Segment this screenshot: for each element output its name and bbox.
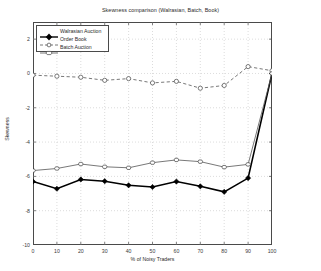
data-point-marker <box>33 169 35 172</box>
data-point-marker <box>78 177 83 182</box>
y-tick-label: 0 <box>12 70 30 76</box>
data-point-marker <box>174 79 178 83</box>
data-point-marker <box>198 160 203 163</box>
y-tick-label: -2 <box>12 105 30 111</box>
chart-title: Skewness comparison (Walrasian, Batch, B… <box>0 7 321 13</box>
y-tick-label: -8 <box>12 208 30 214</box>
data-point-marker <box>55 167 60 170</box>
legend-label-order-book: Order Book <box>60 36 87 42</box>
legend-item-walrasian-auction: Walrasian Auction <box>39 28 106 36</box>
x-tick-label: 0 <box>23 248 43 254</box>
legend-item-order-book: Order Book <box>39 35 106 43</box>
data-point-marker <box>102 165 107 168</box>
legend-label-walrasian-auction: Walrasian Auction <box>60 28 101 34</box>
plot-canvas <box>33 22 272 245</box>
data-point-marker <box>79 75 83 79</box>
data-point-marker <box>126 183 131 188</box>
data-point-marker <box>150 161 155 164</box>
data-point-marker <box>222 83 226 87</box>
x-tick-label: 20 <box>71 248 91 254</box>
x-tick-label: 50 <box>143 248 163 254</box>
y-tick-label: -6 <box>12 173 30 179</box>
data-point-marker <box>103 78 107 82</box>
data-point-marker <box>127 77 131 81</box>
y-tick-label: -4 <box>12 139 30 145</box>
data-point-marker <box>270 72 272 75</box>
y-axis-label: Skewness <box>4 109 10 149</box>
open-circle-icon <box>39 35 59 43</box>
data-point-marker <box>222 165 227 168</box>
data-point-marker <box>150 184 155 189</box>
open-hexagon-icon <box>39 43 59 51</box>
legend: Walrasian Auction Order Book <box>36 25 109 52</box>
data-point-marker <box>174 158 179 161</box>
x-tick-label: 10 <box>47 248 67 254</box>
x-tick-label: 80 <box>214 248 234 254</box>
legend-label-batch-auction: Batch Auction <box>60 44 92 50</box>
data-point-marker <box>33 73 35 77</box>
series-order-book <box>33 65 272 91</box>
legend-item-batch-auction: Batch Auction <box>39 43 106 51</box>
data-point-marker <box>33 179 36 184</box>
x-tick-label: 30 <box>95 248 115 254</box>
data-point-marker <box>246 65 250 69</box>
data-point-marker <box>54 186 59 191</box>
data-point-marker <box>102 179 107 184</box>
data-point-marker <box>198 86 202 90</box>
figure: Skewness comparison (Walrasian, Batch, B… <box>0 0 321 271</box>
x-tick-label: 40 <box>119 248 139 254</box>
x-axis-label: % of Noisy Traders <box>33 256 272 262</box>
x-tick-label: 60 <box>166 248 186 254</box>
chart-page: Skewness comparison (Walrasian, Batch, B… <box>0 0 321 271</box>
data-point-marker <box>126 166 131 169</box>
x-tick-label: 100 <box>262 248 282 254</box>
data-point-marker <box>246 163 251 166</box>
data-point-marker <box>198 184 203 189</box>
x-tick-label: 90 <box>238 248 258 254</box>
series-layer <box>33 65 272 195</box>
data-point-marker <box>55 74 59 78</box>
data-point-marker <box>150 81 154 85</box>
y-tick-label: 2 <box>12 36 30 42</box>
x-tick-label: 70 <box>190 248 210 254</box>
gridlines <box>33 22 272 245</box>
data-point-marker <box>174 179 179 184</box>
data-point-marker <box>79 162 84 165</box>
filled-diamond-icon <box>39 27 59 35</box>
